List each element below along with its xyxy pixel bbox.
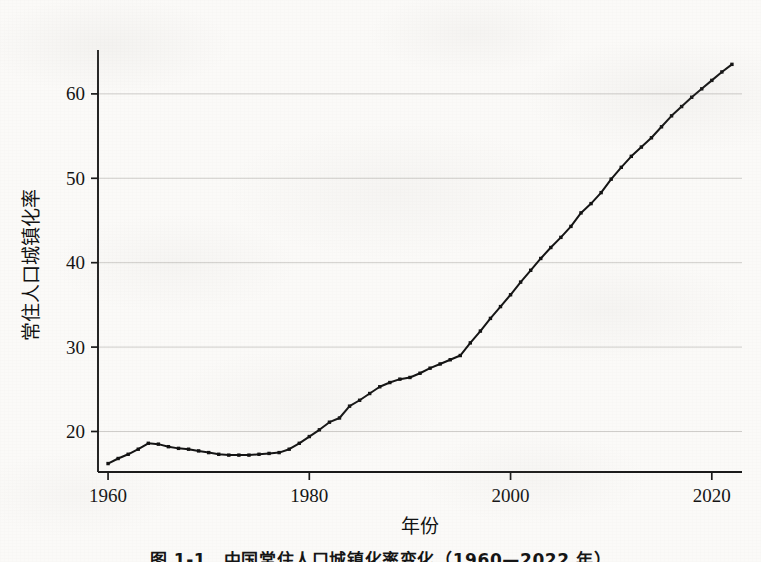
data-point-2020	[710, 79, 713, 82]
data-point-2013	[640, 145, 643, 148]
y-tick-label-60: 60	[66, 83, 85, 104]
y-axis-ticks: 2030405060	[66, 83, 98, 442]
data-point-1988	[388, 381, 391, 384]
data-point-1972	[227, 453, 230, 456]
data-point-1960	[106, 462, 109, 465]
data-point-1971	[217, 453, 220, 456]
scanned-figure-page: 2030405060 1960198020002020 常住人口城镇化率 年份 …	[0, 0, 761, 562]
data-point-2009	[599, 191, 602, 194]
data-point-1965	[157, 442, 160, 445]
data-point-1975	[257, 453, 260, 456]
data-point-2004	[549, 246, 552, 249]
y-tick-label-50: 50	[66, 168, 85, 189]
data-point-1982	[328, 421, 331, 424]
data-point-1995	[459, 354, 462, 357]
x-axis-ticks: 1960198020002020	[89, 472, 731, 506]
line-chart-plot: 2030405060 1960198020002020 常住人口城镇化率 年份	[0, 0, 761, 562]
data-point-1966	[167, 445, 170, 448]
data-point-1984	[348, 404, 351, 407]
figure-caption: 图 1-1 中国常住人口城镇化率变化（1960—2022 年）	[0, 546, 761, 562]
data-point-1992	[428, 366, 431, 369]
data-point-2010	[609, 177, 612, 180]
data-point-2003	[539, 257, 542, 260]
data-point-1963	[137, 448, 140, 451]
data-point-2008	[589, 202, 592, 205]
data-point-2012	[630, 155, 633, 158]
data-point-2017	[680, 105, 683, 108]
data-point-2015	[660, 125, 663, 128]
data-point-1961	[116, 457, 119, 460]
x-tick-label-1980: 1980	[290, 485, 328, 506]
data-point-1998	[489, 317, 492, 320]
data-point-1990	[408, 376, 411, 379]
x-tick-label-1960: 1960	[89, 485, 127, 506]
data-point-1964	[147, 442, 150, 445]
data-point-2018	[690, 96, 693, 99]
data-point-1974	[247, 453, 250, 456]
data-point-2016	[670, 114, 673, 117]
data-point-1985	[358, 399, 361, 402]
y-tick-label-30: 30	[66, 337, 85, 358]
series-line-0	[108, 64, 732, 463]
data-point-1997	[479, 329, 482, 332]
y-axis-title: 常住人口城镇化率	[20, 189, 42, 341]
data-point-1989	[398, 377, 401, 380]
data-point-1969	[197, 449, 200, 452]
data-point-1999	[499, 305, 502, 308]
data-point-2022	[730, 63, 733, 66]
data-point-1996	[469, 341, 472, 344]
data-point-2005	[559, 236, 562, 239]
y-tick-label-40: 40	[66, 252, 85, 273]
data-point-1981	[318, 428, 321, 431]
data-point-1962	[126, 453, 129, 456]
x-tick-label-2020: 2020	[693, 485, 731, 506]
data-point-1986	[368, 392, 371, 395]
data-point-2001	[519, 280, 522, 283]
data-point-1967	[177, 447, 180, 450]
data-series-layer	[106, 63, 733, 466]
data-point-1983	[338, 416, 341, 419]
data-point-2019	[700, 87, 703, 90]
data-point-2000	[509, 293, 512, 296]
data-point-2007	[579, 211, 582, 214]
data-point-2011	[620, 166, 623, 169]
data-point-1980	[308, 435, 311, 438]
data-point-1993	[438, 362, 441, 365]
data-point-1978	[287, 448, 290, 451]
data-point-1991	[418, 372, 421, 375]
data-point-2014	[650, 136, 653, 139]
data-point-2021	[720, 70, 723, 73]
data-point-1976	[267, 452, 270, 455]
data-point-1970	[207, 451, 210, 454]
chart-figure: 2030405060 1960198020002020 常住人口城镇化率 年份	[0, 0, 761, 562]
data-point-1979	[298, 442, 301, 445]
data-point-1994	[448, 358, 451, 361]
x-axis-title: 年份	[401, 515, 439, 537]
data-point-1977	[277, 451, 280, 454]
data-point-1987	[378, 385, 381, 388]
data-point-1973	[237, 453, 240, 456]
x-tick-label-2000: 2000	[492, 485, 530, 506]
y-tick-label-20: 20	[66, 421, 85, 442]
data-point-2006	[569, 225, 572, 228]
data-point-2002	[529, 269, 532, 272]
data-point-1968	[187, 448, 190, 451]
